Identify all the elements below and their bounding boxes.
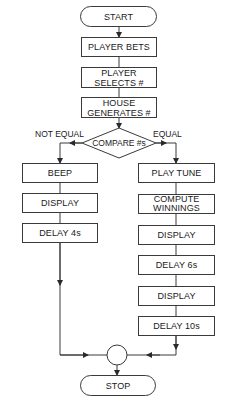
process-display-left: DISPLAY (22, 193, 98, 213)
process-beep: BEEP (22, 163, 98, 183)
process-label: HOUSE GENERATES # (86, 98, 152, 118)
stop-label: STOP (106, 381, 131, 391)
process-label: PLAYER BETS (88, 42, 150, 52)
process-label: DELAY 10s (153, 321, 200, 331)
arrow-right-to-connector (127, 336, 176, 355)
process-label: DISPLAY (157, 291, 195, 301)
process-label: DELAY 6s (156, 260, 198, 270)
process-label: BEEP (48, 168, 72, 178)
process-label: DELAY 4s (39, 228, 81, 238)
arrow-equal (156, 143, 176, 163)
process-delay-6s: DELAY 6s (138, 255, 215, 275)
process-label: PLAY TUNE (152, 168, 202, 178)
start-terminal: START (80, 6, 157, 27)
process-player-selects: PLAYER SELECTS # (81, 67, 157, 88)
branch-label-not-equal: NOT EQUAL (35, 129, 84, 139)
process-compute-winnings: COMPUTE WINNINGS (138, 194, 215, 214)
junction-connector (107, 345, 127, 365)
process-house-generates: HOUSE GENERATES # (81, 97, 157, 118)
decision-label: COMPARE #s (88, 138, 150, 148)
process-label: DISPLAY (157, 230, 195, 240)
branch-label-equal: EQUAL (153, 129, 182, 139)
process-player-bets: PLAYER BETS (81, 37, 157, 57)
process-label: PLAYER SELECTS # (90, 68, 148, 88)
process-label: COMPUTE WINNINGS (145, 195, 208, 213)
process-delay-10s: DELAY 10s (138, 316, 215, 336)
process-play-tune: PLAY TUNE (138, 163, 215, 183)
process-display-right-2: DISPLAY (138, 286, 215, 306)
start-label: START (104, 12, 133, 22)
process-delay-4s: DELAY 4s (22, 223, 98, 243)
process-label: DISPLAY (41, 198, 79, 208)
arrow-not-equal (60, 143, 82, 163)
stop-terminal: STOP (80, 375, 156, 396)
process-display-right-1: DISPLAY (138, 225, 215, 245)
